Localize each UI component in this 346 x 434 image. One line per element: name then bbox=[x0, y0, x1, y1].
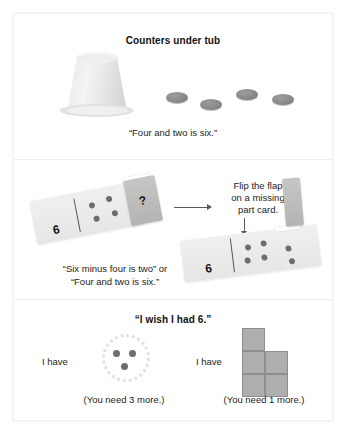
left-missing-part-card: 6 ? bbox=[29, 175, 171, 244]
panel-i-wish-i-had-6: “I wish I had 6.” I have (You need 3 mor… bbox=[14, 300, 332, 418]
circle-dot bbox=[129, 350, 136, 357]
tub-rim-inner bbox=[66, 106, 128, 115]
caption-line-2: “Four and two is six.” bbox=[20, 275, 210, 288]
counter-chip bbox=[200, 99, 222, 110]
worksheet-page: Counters under tub “Four and two is six.… bbox=[0, 0, 346, 434]
tub-top-opening bbox=[76, 52, 118, 63]
note-left: (You need 3 more.) bbox=[64, 394, 184, 405]
block-square bbox=[242, 328, 265, 351]
arrow-right-line bbox=[174, 207, 208, 208]
panel-counters-under-tub: Counters under tub “Four and two is six.… bbox=[14, 18, 332, 160]
arrow-down-line bbox=[244, 218, 245, 232]
worksheet-frame: Counters under tub “Four and two is six.… bbox=[13, 13, 333, 421]
scalloped-circle bbox=[102, 334, 150, 382]
counter-chip bbox=[272, 94, 294, 105]
counter-chip bbox=[236, 89, 258, 100]
caption-counters: “Four and two is six.” bbox=[14, 126, 332, 139]
panel-title-counters: Counters under tub bbox=[14, 35, 332, 46]
block-square bbox=[265, 351, 288, 374]
have-label-right: I have bbox=[196, 356, 222, 367]
circle-dot bbox=[113, 350, 120, 357]
counter-chip bbox=[166, 92, 188, 103]
have-label-left: I have bbox=[42, 356, 68, 367]
note-right: (You need 1 more.) bbox=[204, 394, 324, 405]
block-square bbox=[242, 351, 265, 374]
panel-title-wish: “I wish I had 6.” bbox=[14, 314, 332, 325]
tub-illustration bbox=[58, 56, 136, 122]
caption-missing-part: “Six minus four is two” or “Four and two… bbox=[20, 262, 210, 288]
panel-missing-part-card: 6 ? Flip the flap on a missing part card… bbox=[14, 160, 332, 300]
circle-dot bbox=[121, 363, 128, 370]
caption-line-1: “Six minus four is two” or bbox=[20, 262, 210, 275]
